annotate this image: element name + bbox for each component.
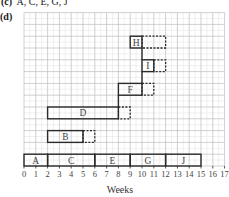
gantt-chart: ACEGJBDFIH 01234567891011121314151617 We… — [0, 0, 229, 197]
activity-label: B — [62, 132, 68, 142]
tick-label: 4 — [69, 169, 74, 179]
tick-label: 17 — [220, 169, 229, 179]
x-axis-title: Weeks — [107, 184, 134, 195]
tick-label: 5 — [81, 169, 85, 179]
tick-label: 3 — [57, 169, 61, 179]
tick-label: 13 — [173, 169, 182, 179]
x-axis-ticks: 01234567891011121314151617 — [22, 166, 229, 179]
tick-label: 1 — [34, 169, 38, 179]
tick-label: 6 — [93, 169, 97, 179]
activity-label: A — [32, 156, 39, 166]
tick-label: 12 — [161, 169, 170, 179]
activity-label: G — [144, 156, 151, 166]
activity-label: J — [181, 156, 185, 166]
activity-label: I — [146, 61, 149, 71]
tick-label: 0 — [22, 169, 26, 179]
tick-label: 7 — [104, 169, 108, 179]
activity-label: H — [133, 38, 140, 48]
activity-label: C — [68, 156, 74, 166]
tick-label: 16 — [209, 169, 218, 179]
tick-label: 14 — [185, 169, 194, 179]
tick-label: 11 — [150, 169, 158, 179]
activity-label: E — [110, 156, 116, 166]
tick-label: 9 — [128, 169, 132, 179]
activity-label: D — [80, 108, 87, 118]
activity-label: F — [128, 85, 133, 95]
tick-label: 8 — [116, 169, 120, 179]
tick-label: 15 — [197, 169, 206, 179]
tick-label: 2 — [45, 169, 49, 179]
tick-label: 10 — [138, 169, 147, 179]
